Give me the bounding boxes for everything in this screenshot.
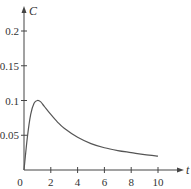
y-tick-label: 0.2: [5, 25, 19, 37]
chart: t C 0246810 0.050.10.150.2: [0, 0, 190, 189]
x-axis-arrow-icon: [177, 168, 184, 173]
x-tick-label: 6: [102, 176, 108, 188]
x-tick-label: 0: [17, 176, 23, 188]
x-tick-label: 10: [153, 176, 165, 188]
y-tick-label: 0.05: [0, 129, 20, 141]
x-axis-label: t: [186, 163, 190, 177]
data-line: [24, 100, 158, 170]
y-ticks: 0.050.10.150.2: [0, 25, 27, 141]
y-tick-label: 0.15: [0, 60, 20, 72]
y-tick-label: 0.1: [5, 95, 19, 107]
axes: t C: [22, 4, 191, 177]
x-tick-label: 8: [128, 176, 134, 188]
x-tick-label: 2: [48, 176, 54, 188]
y-axis-label: C: [29, 4, 38, 18]
y-axis-arrow-icon: [22, 6, 27, 13]
x-tick-label: 4: [75, 176, 81, 188]
